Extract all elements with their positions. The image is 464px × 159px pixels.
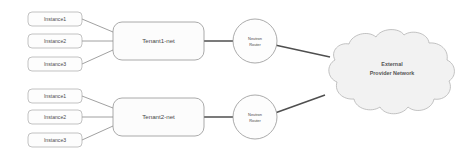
router-circle-shape (233, 95, 277, 139)
tenant-network-label: Tenant1-net (142, 37, 175, 44)
link-router1-to-cloud (275, 45, 330, 57)
instance-node-t1-3[interactable]: Instance3 (28, 57, 82, 71)
cloud-label-line2: Provider Network (370, 70, 415, 76)
router-label-line1: Neutron (248, 112, 262, 117)
diagram-canvas: External Provider Network Instance1 Inst… (0, 0, 464, 159)
link-instance3-to-tenant1-net (82, 50, 113, 64)
instance-node-t1-2[interactable]: Instance2 (28, 34, 82, 48)
tenant1-group: Instance1 Instance2 Instance3 Tenant1-ne… (28, 12, 277, 71)
instance-node-t2-2[interactable]: Instance2 (28, 110, 82, 124)
tenant2-group: Instance1 Instance2 Instance3 Tenant2-ne… (28, 89, 277, 147)
router-label-line1: Neutron (248, 36, 262, 41)
link-instance3-to-tenant2-net (82, 126, 113, 140)
tenant-network-label: Tenant2-net (142, 113, 175, 120)
instance-label: Instance3 (44, 61, 66, 67)
router-circle-shape (233, 19, 277, 63)
link-instance1-to-tenant2-net (82, 96, 113, 108)
router-label-line2: Router (249, 42, 261, 47)
link-instance1-to-tenant1-net (82, 19, 113, 32)
neutron-router-node-1[interactable]: Neutron Router (233, 19, 277, 63)
instance-label: Instance2 (44, 114, 66, 120)
instance-label: Instance2 (44, 38, 66, 44)
instance-label: Instance1 (44, 93, 66, 99)
cloud-label-line1: External (381, 61, 403, 67)
instance-label: Instance1 (44, 16, 66, 22)
network-topology-diagram: External Provider Network Instance1 Inst… (0, 0, 464, 159)
tenant-network-node-tenant1[interactable]: Tenant1-net (113, 22, 204, 60)
neutron-router-node-2[interactable]: Neutron Router (233, 95, 277, 139)
instance-label: Instance3 (44, 137, 66, 143)
instance-node-t1-1[interactable]: Instance1 (28, 12, 82, 26)
external-provider-network-node[interactable]: External Provider Network (329, 30, 455, 114)
link-router2-to-cloud (275, 95, 325, 113)
tenant-network-node-tenant2[interactable]: Tenant2-net (113, 98, 204, 136)
instance-node-t2-3[interactable]: Instance3 (28, 133, 82, 147)
instance-node-t2-1[interactable]: Instance1 (28, 89, 82, 103)
router-label-line2: Router (249, 118, 261, 123)
